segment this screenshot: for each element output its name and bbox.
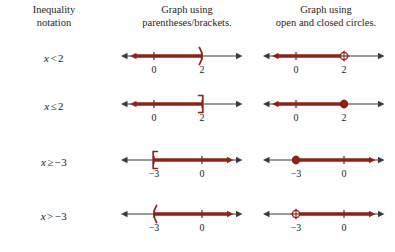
table-row: x≤20202 xyxy=(0,86,395,134)
inequality-notation-row-x-gt-neg3: x>−3 xyxy=(0,210,108,222)
header-line-2: open and closed circles. xyxy=(258,17,394,30)
tick-label: −3 xyxy=(141,168,167,179)
tick-label: 2 xyxy=(189,112,215,123)
tick-label: 0 xyxy=(331,222,357,233)
inequality-value: 2 xyxy=(58,52,64,64)
inequality-notation-row-x-lt-2: x<2 xyxy=(0,52,108,64)
inequality-value: 2 xyxy=(58,100,64,112)
number-line-bracket-row-x-lt-2: 02 xyxy=(114,38,250,86)
inequality-operator: < xyxy=(49,52,58,64)
table-row: x≥−3−30−30 xyxy=(0,142,395,190)
header-line-1: Inequality xyxy=(33,4,76,15)
tick-label: 0 xyxy=(141,112,167,123)
tick-label: −3 xyxy=(141,222,167,233)
header-graph-circles: Graph using open and closed circles. xyxy=(258,4,394,29)
table-row: x>−3−30−30 xyxy=(0,196,395,244)
header-graph-parentheses: Graph using parentheses/brackets. xyxy=(122,4,252,29)
number-line-circle-row-x-le-2: 02 xyxy=(256,86,392,134)
inequality-operator: ≤ xyxy=(49,100,57,112)
tick-label: 0 xyxy=(283,112,309,123)
header-line-1: Graph using xyxy=(161,4,213,15)
tick-label: −3 xyxy=(283,222,309,233)
inequality-operator: > xyxy=(46,210,55,222)
tick-label: 0 xyxy=(189,222,215,233)
inequality-value: −3 xyxy=(55,156,68,168)
tick-label: 2 xyxy=(331,112,357,123)
number-line-circle-row-x-ge-neg3: −30 xyxy=(256,142,392,190)
tick-label: 2 xyxy=(331,64,357,75)
inequality-notation-table: Inequality notation Graph using parenthe… xyxy=(0,0,395,252)
header-line-2: parentheses/brackets. xyxy=(122,17,252,30)
inequality-value: −3 xyxy=(55,210,68,222)
number-line-bracket-row-x-gt-neg3: −30 xyxy=(114,196,250,244)
inequality-notation-row-x-ge-neg3: x≥−3 xyxy=(0,156,108,168)
number-line-bracket-row-x-le-2: 02 xyxy=(114,86,250,134)
inequality-operator: ≥ xyxy=(46,156,54,168)
tick-label: 0 xyxy=(141,64,167,75)
tick-label: 2 xyxy=(189,64,215,75)
number-line-circle-row-x-gt-neg3: −30 xyxy=(256,196,392,244)
tick-label: 0 xyxy=(331,168,357,179)
tick-label: 0 xyxy=(189,168,215,179)
table-header: Inequality notation Graph using parenthe… xyxy=(0,0,395,32)
tick-label: −3 xyxy=(283,168,309,179)
inequality-notation-row-x-le-2: x≤2 xyxy=(0,100,108,112)
number-line-bracket-row-x-ge-neg3: −30 xyxy=(114,142,250,190)
tick-label: 0 xyxy=(283,64,309,75)
table-row: x<20202 xyxy=(0,38,395,86)
header-line-2: notation xyxy=(0,17,108,30)
header-line-1: Graph using xyxy=(300,4,352,15)
header-inequality-notation: Inequality notation xyxy=(0,4,108,29)
number-line-circle-row-x-lt-2: 02 xyxy=(256,38,392,86)
